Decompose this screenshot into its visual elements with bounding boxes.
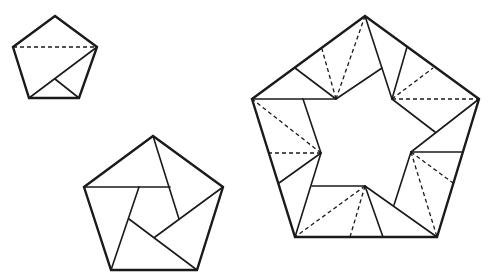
step-3-star-pentagon xyxy=(252,16,479,237)
fold-line-solid xyxy=(394,152,411,205)
fold-line-solid xyxy=(153,136,179,219)
step-2-pinwheel-pentagon xyxy=(84,136,223,270)
fold-line-solid xyxy=(303,99,321,153)
fold-line-solid xyxy=(392,99,435,132)
origami-diagram xyxy=(0,0,492,280)
fold-line-solid xyxy=(336,68,382,99)
fold-line-dashed xyxy=(411,152,437,237)
fold-line-solid xyxy=(55,79,79,98)
fold-line-dashed xyxy=(336,16,365,99)
fold-line-solid xyxy=(295,68,336,99)
fold-line-solid xyxy=(279,153,321,183)
fold-line-solid xyxy=(392,47,407,99)
step-1-small-pentagon xyxy=(13,16,97,98)
fold-line-solid xyxy=(365,186,437,237)
fold-line-solid xyxy=(411,99,479,152)
fold-line-solid xyxy=(155,187,223,237)
fold-line-dashed xyxy=(295,186,365,237)
diagram-canvas xyxy=(0,0,492,280)
fold-line-solid xyxy=(111,187,139,270)
fold-line-dashed xyxy=(411,152,453,183)
fold-line-dashed xyxy=(322,49,336,99)
fold-line-solid xyxy=(295,153,321,237)
fold-line-solid xyxy=(365,16,392,99)
fold-line-dashed xyxy=(392,68,433,99)
fold-line-dashed xyxy=(252,99,321,153)
fold-line-dashed xyxy=(350,186,365,237)
fold-line-solid xyxy=(365,186,383,237)
fold-line-solid xyxy=(129,219,197,270)
